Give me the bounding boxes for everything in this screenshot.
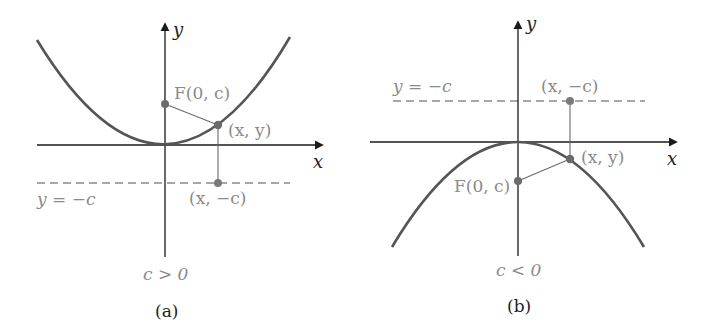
focus-to-point-segment-a [165,104,218,125]
panel-a: y x F(0, c) (x, y) (x, −c) y = −c c > 0 … [36,19,323,321]
directrix-point-b [566,97,574,105]
focus-point-a [161,100,169,108]
directrix-label-a: y = −c [36,189,96,209]
parabola-focus-directrix-figure: y x F(0, c) (x, y) (x, −c) y = −c c > 0 … [0,0,714,333]
y-axis-label-a: y [172,19,184,40]
y-axis-label-b: y [525,13,537,34]
directrix-label-b: y = −c [392,76,452,96]
directrix-point-a [214,179,222,187]
directrix-point-label-a: (x, −c) [189,188,246,208]
panel-caption-a: (a) [155,301,178,321]
x-axis-label-b: x [667,148,677,169]
x-axis-label-a: x [313,151,323,172]
curve-point-b [566,155,574,163]
condition-label-b: c < 0 [496,260,542,280]
directrix-point-label-b: (x, −c) [541,76,598,96]
panel-caption-b: (b) [507,296,531,316]
focus-to-point-segment-b [518,159,570,181]
curve-point-label-b: (x, y) [581,147,624,167]
curve-point-a [214,121,222,129]
panel-b: y x F(0, c) (x, y) (x, −c) y = −c c < 0 … [370,13,677,316]
focus-point-b [514,177,522,185]
focus-label-a: F(0, c) [174,83,230,103]
curve-point-label-a: (x, y) [228,120,271,140]
focus-label-b: F(0, c) [454,176,510,196]
condition-label-a: c > 0 [143,264,189,284]
